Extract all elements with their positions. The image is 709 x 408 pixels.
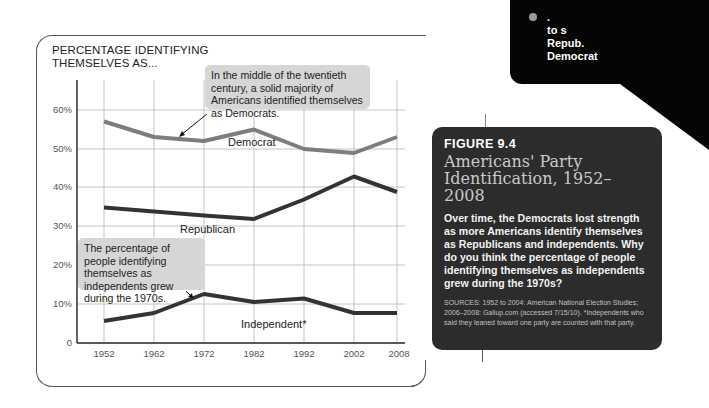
x-tick-1972: 1972 (186, 348, 222, 359)
y-tick-0: 0 (44, 337, 72, 348)
x-tick-2008: 2008 (381, 348, 417, 359)
series-label-independent: Independent* (241, 318, 306, 330)
y-tick-40: 40% (44, 181, 72, 192)
connector-line-bottom (482, 350, 483, 362)
callout-democrat: In the middle of the twentieth century, … (205, 65, 370, 109)
previous-figure-text: . to s Repub. Democrat (547, 11, 598, 63)
series-republican (104, 177, 397, 220)
callout-independent: The percentage of people identifying the… (78, 238, 205, 290)
y-tick-60: 60% (44, 104, 72, 115)
callout-arrow-democrat (181, 114, 207, 135)
bullet-dot-icon (529, 13, 537, 21)
figure-title: Americans' Party Identification, 1952–20… (444, 153, 652, 204)
y-tick-50: 50% (44, 143, 72, 154)
figure-label: FIGURE 9.4 (444, 137, 652, 151)
y-tick-10: 10% (44, 298, 72, 309)
x-tick-1992: 1992 (286, 348, 322, 359)
connector-line-top (485, 114, 486, 127)
figure-body: Over time, the Democrats lost strength a… (444, 212, 652, 290)
figure-caption-panel: FIGURE 9.4 Americans' Party Identificati… (432, 127, 662, 350)
y-tick-30: 30% (44, 220, 72, 231)
previous-figure-tab (510, 0, 709, 84)
series-label-republican: Republican (180, 223, 235, 235)
y-tick-20: 20% (44, 259, 72, 270)
series-label-democrat: Democrat (228, 136, 276, 148)
figure-sources: SOURCES: 1952 to 2004: American National… (444, 298, 652, 328)
x-tick-1952: 1952 (86, 348, 122, 359)
x-tick-2002: 2002 (336, 348, 372, 359)
x-tick-1982: 1982 (236, 348, 272, 359)
x-tick-1962: 1962 (136, 348, 172, 359)
